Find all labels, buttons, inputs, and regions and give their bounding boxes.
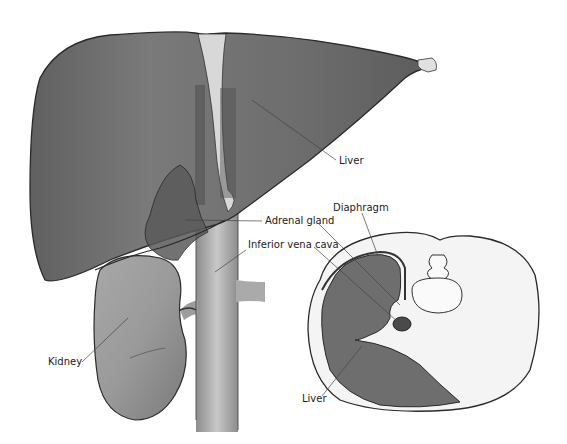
kidney bbox=[94, 256, 186, 420]
cross-section bbox=[308, 232, 539, 411]
label-liver: Liver bbox=[339, 156, 364, 166]
label-adrenal-gland: Adrenal gland bbox=[265, 216, 334, 226]
label-liver-section: Liver bbox=[302, 394, 327, 404]
label-kidney: Kidney bbox=[48, 357, 82, 367]
label-diaphragm: Diaphragm bbox=[333, 203, 389, 213]
label-inferior-vena-cava: Inferior vena cava bbox=[248, 240, 339, 250]
